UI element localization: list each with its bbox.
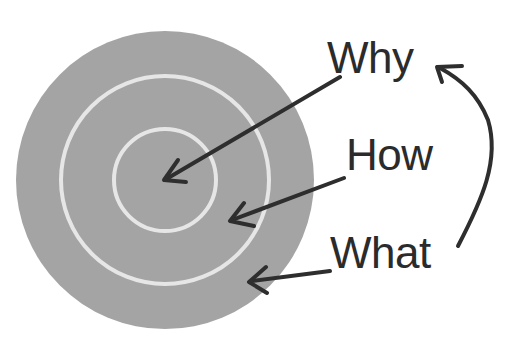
why-label: Why [327,36,414,80]
golden-circle-diagram: Why How What [0,0,526,347]
diagram-graphics [0,0,526,347]
curved-arrow-icon [437,66,492,246]
how-label: How [346,133,433,177]
what-arrow-icon [249,267,330,293]
what-label: What [330,231,431,275]
